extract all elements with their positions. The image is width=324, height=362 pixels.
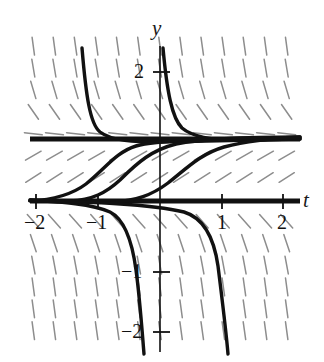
slope-mark	[279, 173, 294, 183]
slope-mark	[32, 59, 35, 77]
slope-mark	[117, 322, 120, 340]
slope-mark	[284, 235, 290, 252]
slope-mark	[95, 278, 98, 296]
slope-mark	[285, 256, 288, 274]
slope-mark	[32, 37, 34, 55]
slope-mark	[73, 235, 79, 252]
slope-mark	[115, 81, 120, 98]
slope-mark	[260, 215, 272, 228]
slope-mark	[67, 133, 85, 135]
slope-mark	[180, 256, 183, 274]
slope-mark	[264, 322, 266, 340]
slope-mark	[131, 173, 146, 183]
slope-mark	[285, 59, 288, 77]
slope-mark	[52, 235, 58, 252]
slope-mark	[68, 173, 83, 183]
slope-mark	[48, 215, 60, 228]
slope-mark	[201, 322, 204, 340]
slope-mark	[47, 151, 63, 160]
slope-mark	[117, 37, 120, 55]
slope-mark	[201, 300, 204, 318]
slope-mark	[136, 235, 142, 252]
slope-mark	[264, 256, 267, 274]
slope-mark	[74, 322, 77, 340]
slope-mark	[53, 278, 55, 296]
slope-mark	[28, 105, 38, 120]
slope-mark	[173, 151, 189, 160]
slope-mark	[236, 133, 254, 135]
slope-mark	[134, 105, 144, 120]
slope-mark	[179, 81, 184, 98]
slope-mark	[74, 300, 77, 318]
slope-mark	[237, 151, 253, 160]
slope-mark	[242, 235, 248, 252]
slope-mark	[263, 81, 268, 98]
slope-mark	[260, 105, 270, 120]
slope-mark	[258, 151, 274, 160]
slope-mark	[199, 235, 205, 252]
slope-mark	[201, 59, 204, 77]
y-axis-label: y	[152, 18, 161, 39]
slope-mark	[222, 256, 225, 274]
slope-mark	[178, 235, 184, 252]
slope-mark	[197, 105, 207, 120]
slope-mark	[218, 105, 228, 120]
slope-mark	[258, 173, 273, 183]
slope-mark	[115, 235, 121, 252]
slope-mark	[24, 133, 42, 135]
slope-mark	[222, 59, 225, 77]
slope-mark	[279, 151, 295, 160]
slope-mark	[264, 37, 266, 55]
slope-mark	[175, 215, 187, 228]
slope-mark	[31, 81, 36, 98]
slope-mark	[74, 37, 77, 55]
slope-mark	[239, 105, 249, 120]
tick-label-y-neg1: −1	[121, 261, 142, 281]
slope-mark	[195, 173, 210, 183]
slope-mark	[243, 322, 246, 340]
slope-mark	[216, 151, 232, 160]
slope-mark	[257, 133, 275, 135]
slope-mark	[264, 300, 266, 318]
slope-mark	[201, 278, 204, 296]
slope-mark	[243, 37, 246, 55]
tick-label-y-pos2: 2	[134, 61, 144, 81]
slope-mark	[70, 215, 82, 228]
slope-mark	[116, 256, 119, 274]
slope-mark	[243, 59, 246, 77]
slope-mark	[286, 278, 288, 296]
slope-mark	[95, 256, 98, 274]
slope-mark	[216, 173, 231, 183]
tick-label-t-pos1: 1	[217, 212, 227, 232]
slope-mark	[117, 278, 120, 296]
slope-mark	[32, 256, 35, 274]
slope-mark	[117, 300, 120, 318]
t-axis-label: t	[303, 190, 309, 211]
slope-mark	[53, 256, 56, 274]
slope-mark	[53, 37, 55, 55]
slope-mark	[95, 322, 98, 340]
plot-canvas	[0, 0, 324, 362]
slope-mark	[221, 81, 226, 98]
slope-mark	[264, 59, 267, 77]
slope-mark	[263, 235, 269, 252]
slope-mark	[94, 235, 100, 252]
slope-mark	[243, 256, 246, 274]
slope-mark	[136, 81, 141, 98]
slope-mark	[222, 37, 225, 55]
slope-mark	[89, 151, 105, 160]
slope-mark	[180, 278, 182, 296]
solution-curve-above-1-right	[163, 48, 300, 140]
slope-mark	[95, 37, 98, 55]
slope-mark	[32, 300, 34, 318]
slope-mark	[243, 278, 246, 296]
slope-mark	[264, 278, 266, 296]
slope-mark	[200, 81, 205, 98]
slope-mark	[26, 173, 41, 183]
slope-mark	[176, 105, 186, 120]
slope-mark	[243, 300, 246, 318]
slope-mark	[201, 256, 204, 274]
slope-mark	[70, 105, 80, 120]
slope-mark	[26, 151, 42, 160]
slope-mark	[74, 256, 77, 274]
